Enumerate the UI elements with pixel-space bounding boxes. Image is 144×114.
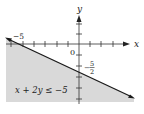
x-axis-label: x [134, 39, 139, 49]
inequality-graph: y x 0 −5 − 5 2 x + 2y ≤ −5 [0, 0, 144, 114]
x-axis-arrow-icon [123, 42, 130, 47]
x-intercept-label: −5 [13, 32, 24, 41]
svg-text:2: 2 [90, 68, 94, 76]
y-axis-label: y [76, 4, 83, 14]
inequality-label: x + 2y ≤ −5 [15, 85, 68, 95]
svg-text:5: 5 [90, 60, 94, 68]
y-axis-arrow-icon [77, 15, 82, 22]
origin-label: 0 [70, 48, 75, 57]
y-intercept-label: − 5 2 [84, 60, 95, 76]
